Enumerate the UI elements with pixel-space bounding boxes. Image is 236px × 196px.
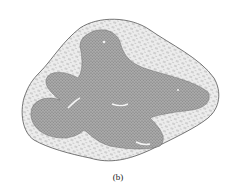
tissue-section-illustration — [0, 0, 236, 196]
vessel — [177, 89, 179, 91]
figure: (b) — [0, 0, 236, 196]
figure-caption: (b) — [0, 172, 236, 182]
vessel — [103, 41, 106, 44]
